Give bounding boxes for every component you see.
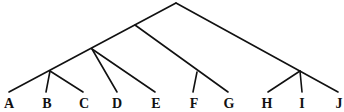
edge-HIJ-node-to-H bbox=[268, 71, 300, 92]
leaf-label-J: J bbox=[336, 96, 343, 111]
edge-root-to-J bbox=[176, 3, 338, 92]
leaf-label-H: H bbox=[262, 96, 273, 111]
leaf-label-G: G bbox=[224, 96, 235, 111]
leaf-label-F: F bbox=[190, 96, 199, 111]
edge-ABC-node-to-C bbox=[50, 71, 83, 92]
edge-FG-node-to-F bbox=[193, 72, 197, 92]
leaf-label-E: E bbox=[151, 96, 160, 111]
leaf-label-I: I bbox=[299, 96, 304, 111]
leaf-label-D: D bbox=[112, 96, 122, 111]
edge-HIJ-node-to-I bbox=[300, 71, 302, 92]
leaf-label-A: A bbox=[4, 96, 15, 111]
edge-AE-node-to-D bbox=[92, 49, 117, 92]
tree-diagram: A B C D E F G H I J bbox=[0, 0, 344, 112]
leaf-label-B: B bbox=[42, 96, 51, 111]
edge-AE-node-to-E bbox=[92, 49, 155, 92]
edge-root-to-A bbox=[9, 3, 176, 92]
leaf-label-C: C bbox=[79, 96, 89, 111]
edge-ABC-node-to-B bbox=[46, 71, 50, 92]
edge-AG-node-to-G bbox=[135, 25, 228, 92]
